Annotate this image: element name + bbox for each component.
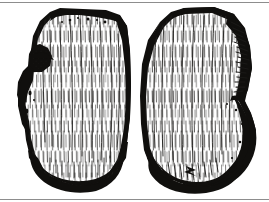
artifact-plate-drawing: [0, 0, 269, 202]
figure-left-artifact: [16, 8, 136, 193]
illustration-plate: [0, 0, 269, 202]
figure-right-artifact: [138, 7, 262, 194]
